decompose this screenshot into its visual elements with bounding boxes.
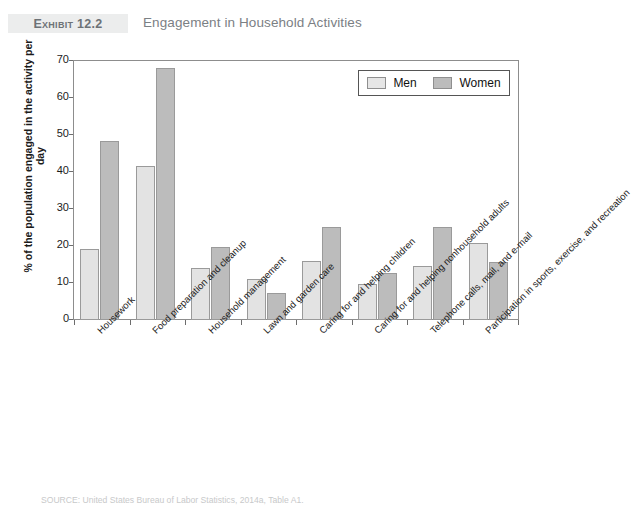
y-axis-tick-0: 0 <box>29 312 69 324</box>
y-axis-tick-50: 50 <box>29 127 69 139</box>
y-axis-tick-mark <box>69 208 73 209</box>
legend-label-women: Women <box>459 76 500 90</box>
y-axis-tick-mark <box>69 319 73 320</box>
legend-item-women: Women <box>433 76 500 90</box>
x-axis-tick-mark <box>463 320 464 325</box>
bar-group <box>296 61 352 320</box>
bar-chart: % of the population engaged in the activ… <box>0 44 538 489</box>
y-axis-tick-10: 10 <box>29 275 69 287</box>
bar-men <box>136 166 155 320</box>
legend-label-men: Men <box>393 76 416 90</box>
y-axis-tick-30: 30 <box>29 201 69 213</box>
exhibit-number-badge: Exhibit 12.2 <box>8 14 128 33</box>
x-axis-tick-mark <box>241 320 242 325</box>
bar-series-container <box>74 61 518 320</box>
legend-swatch-women-icon <box>433 77 452 89</box>
x-axis-category-labels: HouseworkFood preparation and cleanupHou… <box>0 326 538 486</box>
x-axis-tick-mark <box>352 320 353 325</box>
source-note: SOURCE: United States Bureau of Labor St… <box>41 495 304 505</box>
page-title: Engagement in Household Activities <box>143 15 362 30</box>
y-axis-tick-40: 40 <box>29 164 69 176</box>
bar-group <box>74 61 130 320</box>
x-axis-tick-mark <box>130 320 131 325</box>
y-axis-tick-20: 20 <box>29 238 69 250</box>
x-axis-tick-mark <box>74 320 75 325</box>
x-axis-tick-mark <box>518 320 519 325</box>
y-axis-tick-mark <box>69 171 73 172</box>
y-axis-tick-mark <box>69 282 73 283</box>
bar-group <box>407 61 463 320</box>
y-axis-tick-mark <box>69 245 73 246</box>
y-axis-tick-mark <box>69 60 73 61</box>
bar-group <box>130 61 186 320</box>
y-axis-tick-labels: 010203040506070 <box>26 60 69 320</box>
x-axis-tick-mark <box>407 320 408 325</box>
legend-swatch-men-icon <box>367 77 386 89</box>
y-axis-tick-mark <box>69 134 73 135</box>
exhibit-number-label: Exhibit 12.2 <box>33 17 102 31</box>
y-axis-tick-mark <box>69 97 73 98</box>
bar-group <box>185 61 241 320</box>
bar-men <box>80 249 99 320</box>
legend-item-men: Men <box>367 76 416 90</box>
x-axis-tick-mark <box>185 320 186 325</box>
y-axis-tick-70: 70 <box>29 53 69 65</box>
bar-women <box>156 68 175 320</box>
x-axis-tick-mark <box>296 320 297 325</box>
exhibit-header: Exhibit 12.2 Engagement in Household Act… <box>0 0 538 44</box>
chart-legend: Men Women <box>358 70 510 96</box>
bar-women <box>100 141 119 320</box>
y-axis-tick-60: 60 <box>29 90 69 102</box>
